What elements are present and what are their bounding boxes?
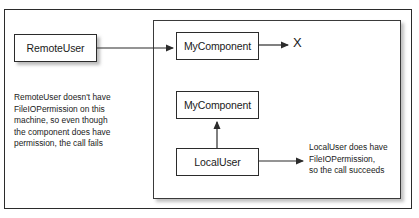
security-permission-diagram: RemoteUser MyComponent MyComponent Local… [0,0,419,218]
failure-marker-x: X [293,36,302,49]
node-mycomponent-top-label: MyComponent [184,40,251,52]
node-local-user: LocalUser [176,148,259,176]
node-remote-user: RemoteUser [14,34,97,62]
node-mycomponent-top: MyComponent [176,32,259,60]
caption-remote-user-failure: RemoteUser doesn't have FileIOPermission… [14,92,144,150]
node-remote-user-label: RemoteUser [27,42,85,54]
caption-local-user-success: LocalUser does have FileIOPermission, so… [309,142,409,177]
node-local-user-label: LocalUser [194,156,240,168]
node-mycomponent-bottom: MyComponent [176,91,259,119]
node-mycomponent-bottom-label: MyComponent [184,99,251,111]
